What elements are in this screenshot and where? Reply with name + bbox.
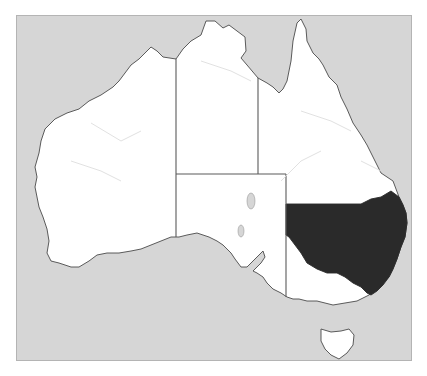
region-tasmania[interactable]	[321, 329, 354, 359]
map-frame: Australia - New South Wales highlighted	[16, 15, 412, 361]
lake-eyre	[247, 193, 255, 209]
lake-torrens	[238, 225, 244, 237]
